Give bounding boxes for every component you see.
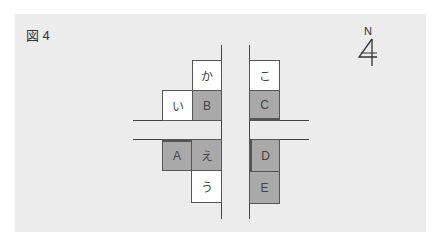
compass: N [355, 25, 381, 71]
block-E: E [249, 171, 280, 204]
north-letter: N [355, 25, 381, 37]
figure-label: 図 4 [26, 25, 50, 44]
block-B: B [192, 90, 222, 121]
block-C: C [249, 90, 280, 121]
block-ko: こ [249, 60, 280, 91]
block-ka: か [192, 60, 222, 91]
north-arrow-icon [355, 37, 381, 67]
block-i: い [162, 90, 193, 121]
block-e: え [191, 139, 222, 171]
block-u: う [191, 170, 222, 203]
block-D: D [249, 139, 280, 172]
block-A: A [162, 139, 192, 171]
